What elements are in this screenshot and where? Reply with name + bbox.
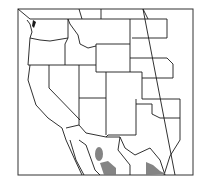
range-area-sonora-upper <box>95 147 103 161</box>
range-map <box>0 0 197 188</box>
